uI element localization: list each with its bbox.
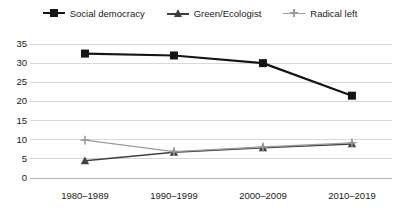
square-marker-icon — [43, 7, 65, 19]
legend-label-green-ecologist: Green/Ecologist — [194, 8, 262, 19]
legend-item-green-ecologist[interactable]: Green/Ecologist — [167, 7, 262, 19]
legend-item-social-democracy[interactable]: Social democracy — [43, 7, 145, 19]
x-tick-label: 1980–1989 — [61, 190, 109, 201]
chart-container: Social democracy Green/Ecologist Radical… — [0, 0, 400, 214]
x-tick-label: 2000–2009 — [239, 190, 287, 201]
legend-label-social-democracy: Social democracy — [70, 8, 145, 19]
x-tick-label: 2010–2019 — [328, 190, 376, 201]
chart-legend: Social democracy Green/Ecologist Radical… — [0, 4, 400, 22]
legend-item-radical-left[interactable]: Radical left — [283, 7, 357, 19]
legend-label-radical-left: Radical left — [310, 8, 357, 19]
plot-area: 05101520253035 1980–19891990–19992000–20… — [0, 22, 400, 214]
triangle-marker-icon — [167, 7, 189, 19]
x-tick-label: 1990–1999 — [150, 190, 198, 201]
x-axis: 1980–19891990–19992000–20092010–2019 — [0, 22, 400, 214]
plus-marker-icon — [283, 7, 305, 19]
